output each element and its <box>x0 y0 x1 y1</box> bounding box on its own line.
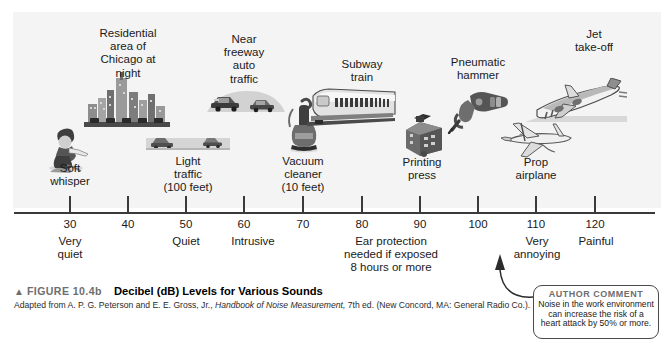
axis-tick-40 <box>127 196 129 213</box>
source-label-prop-airplane: Prop airplane <box>476 156 596 182</box>
figure-triangle-icon: ▲ <box>14 286 24 297</box>
source-label-soft-whisper: Soft whisper <box>10 162 130 188</box>
printing-press-icon <box>400 110 448 162</box>
source-label-subway-train: Subway train <box>302 58 422 84</box>
axis-label-50: 50 <box>166 218 206 231</box>
source-book-title: Handbook of Noise Measurement, <box>215 300 345 310</box>
axis-label-80: 80 <box>342 218 382 231</box>
figure-decibel-levels: Soft whisper <box>0 0 668 353</box>
freeway-traffic-icon <box>205 82 287 120</box>
axis-label-40: 40 <box>108 218 148 231</box>
source-suffix: 7th ed. (New Concord, MA: General Radio … <box>345 300 530 310</box>
axis-label-70: 70 <box>283 218 323 231</box>
band-label-painful: Painful <box>526 235 666 248</box>
source-label-near-freeway: Near freeway auto traffic <box>184 33 304 86</box>
source-label-printing-press: Printing press <box>362 156 482 182</box>
figure-source: Adapted from A. P. G. Peterson and E. E.… <box>14 300 484 311</box>
subway-train-icon <box>305 84 397 132</box>
author-comment-heading: AUTHOR COMMENT <box>534 289 658 299</box>
figure-number: FIGURE 10.4b <box>27 285 102 297</box>
axis-label-110: 110 <box>516 218 556 231</box>
axis-label-100: 100 <box>458 218 498 231</box>
axis-tick-70 <box>302 196 304 213</box>
source-label-residential-chicago: Residential area of Chicago at night <box>68 27 188 80</box>
source-label-pneumatic-hammer: Pneumatic hammer <box>418 56 538 82</box>
decibel-axis-line <box>14 212 655 214</box>
author-comment-text: Noise in the work environment can increa… <box>534 299 658 329</box>
axis-label-30: 30 <box>50 218 90 231</box>
source-prefix: Adapted from A. P. G. Peterson and E. E.… <box>14 300 215 310</box>
axis-tick-30 <box>69 196 71 213</box>
axis-tick-80 <box>361 196 363 213</box>
axis-label-60: 60 <box>224 218 264 231</box>
author-comment-box: AUTHOR COMMENT Noise in the work environ… <box>533 285 659 339</box>
axis-tick-50 <box>185 196 187 213</box>
axis-label-120: 120 <box>575 218 615 231</box>
source-label-jet-takeoff: Jet take-off <box>534 28 654 54</box>
axis-tick-120 <box>594 196 596 213</box>
axis-tick-60 <box>243 196 245 213</box>
axis-tick-110 <box>535 196 537 213</box>
source-label-light-traffic: Light traffic (100 feet) <box>128 155 248 195</box>
source-label-vacuum-cleaner: Vacuum cleaner (10 feet) <box>243 155 363 195</box>
axis-tick-100 <box>477 196 479 213</box>
light-traffic-icon <box>146 128 230 158</box>
axis-tick-90 <box>419 196 421 213</box>
city-skyline-icon <box>84 72 170 132</box>
jet-takeoff-icon <box>523 78 627 132</box>
figure-caption: ▲ FIGURE 10.4b Decibel (dB) Levels for V… <box>14 285 484 311</box>
axis-label-90: 90 <box>400 218 440 231</box>
figure-title: Decibel (dB) Levels for Various Sounds <box>114 285 323 297</box>
